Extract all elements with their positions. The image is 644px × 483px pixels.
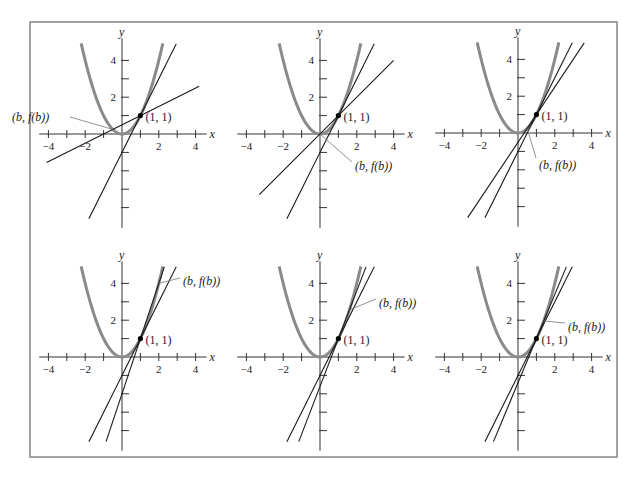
secant-point-label: (b, f(b)) xyxy=(183,274,220,288)
x-tick-label: −4 xyxy=(43,140,55,152)
y-tick-label: 2 xyxy=(111,314,117,326)
y-tick-label: 2 xyxy=(309,314,315,326)
panel-2: −4−22424xy(1, 1)(b, f(b)) xyxy=(237,25,413,228)
x-axis-label: x xyxy=(208,127,215,141)
y-tick-label: 4 xyxy=(507,53,513,65)
point-1-1 xyxy=(138,336,143,341)
x-tick-label: −2 xyxy=(79,140,91,152)
y-tick-label: 2 xyxy=(111,91,117,103)
y-tick-label: 2 xyxy=(507,90,513,102)
secant-point-label: (b, f(b)) xyxy=(568,320,605,334)
point-label: (1, 1) xyxy=(541,109,567,123)
point-1-1 xyxy=(534,112,539,117)
tangent-line xyxy=(89,44,176,219)
secant-label-leader xyxy=(159,278,180,283)
point-label: (1, 1) xyxy=(145,110,171,124)
secant-label-leader xyxy=(544,321,565,323)
point-label: (1, 1) xyxy=(541,333,567,347)
secant-point-label: (b, f(b)) xyxy=(379,296,416,310)
y-tick-label: 2 xyxy=(507,314,513,326)
y-axis-label: y xyxy=(316,248,323,262)
tangent-line xyxy=(287,267,374,442)
x-tick-label: 4 xyxy=(391,363,397,375)
x-tick-label: −2 xyxy=(79,363,91,375)
point-1-1 xyxy=(336,113,341,118)
secant-point-label: (b, f(b)) xyxy=(355,159,392,173)
panel-4: −4−22424xy(1, 1)(b, f(b)) xyxy=(39,248,220,451)
x-tick-label: 4 xyxy=(193,363,199,375)
point-1-1 xyxy=(534,336,539,341)
panel-1: −4−22424xy(1, 1)(b, f(b)) xyxy=(12,25,215,228)
x-tick-label: −4 xyxy=(241,363,253,375)
x-tick-label: −4 xyxy=(439,363,451,375)
point-label: (1, 1) xyxy=(343,110,369,124)
x-tick-label: 2 xyxy=(156,363,162,375)
y-axis-label: y xyxy=(118,25,125,39)
y-axis-label: y xyxy=(316,25,323,39)
x-tick-label: 4 xyxy=(589,139,595,151)
x-tick-label: −2 xyxy=(277,140,289,152)
x-tick-label: 4 xyxy=(391,140,397,152)
x-tick-label: −2 xyxy=(475,363,487,375)
x-tick-label: −4 xyxy=(439,139,451,151)
x-tick-label: −2 xyxy=(277,363,289,375)
y-axis-label: y xyxy=(514,248,521,262)
panel-3: −4−22424xy(1, 1)(b, f(b)) xyxy=(435,24,611,227)
tangent-line xyxy=(287,44,374,219)
tangent-line xyxy=(485,267,572,442)
point-label: (1, 1) xyxy=(343,333,369,347)
point-1-1 xyxy=(336,336,341,341)
x-tick-label: −4 xyxy=(43,363,55,375)
x-tick-label: −2 xyxy=(475,139,487,151)
secant-line xyxy=(299,267,366,442)
y-tick-label: 4 xyxy=(507,277,513,289)
tangent-line xyxy=(89,267,176,442)
y-tick-label: 4 xyxy=(111,277,117,289)
y-axis-label: y xyxy=(514,24,521,38)
y-tick-label: 4 xyxy=(309,277,315,289)
secant-line xyxy=(493,267,566,442)
x-axis-label: x xyxy=(406,350,413,364)
x-axis-label: x xyxy=(208,350,215,364)
secant-line xyxy=(259,60,393,194)
y-tick-label: 2 xyxy=(309,91,315,103)
secant-lines-figure: −4−22424xy(1, 1)(b, f(b))−4−22424xy(1, 1… xyxy=(0,0,644,483)
secant-point-label: (b, f(b)) xyxy=(12,110,49,124)
secant-label-leader xyxy=(320,134,352,162)
y-tick-label: 4 xyxy=(111,54,117,66)
point-1-1 xyxy=(138,113,143,118)
secant-point-label: (b, f(b)) xyxy=(539,158,576,172)
x-tick-label: 2 xyxy=(552,139,558,151)
panel-6: −4−22424xy(1, 1)(b, f(b)) xyxy=(435,248,611,451)
figure-frame xyxy=(30,22,617,457)
tangent-line xyxy=(485,43,572,218)
x-axis-label: x xyxy=(406,127,413,141)
panel-5: −4−22424xy(1, 1)(b, f(b)) xyxy=(237,248,416,451)
x-axis-label: x xyxy=(604,126,611,140)
x-tick-label: 4 xyxy=(193,140,199,152)
y-axis-label: y xyxy=(118,248,125,262)
x-tick-label: 2 xyxy=(156,140,162,152)
x-tick-label: 2 xyxy=(354,363,360,375)
y-tick-label: 4 xyxy=(309,54,315,66)
x-axis-label: x xyxy=(604,350,611,364)
x-tick-label: 2 xyxy=(354,140,360,152)
x-tick-label: 2 xyxy=(552,363,558,375)
point-label: (1, 1) xyxy=(145,333,171,347)
x-tick-label: 4 xyxy=(589,363,595,375)
x-tick-label: −4 xyxy=(241,140,253,152)
figure-canvas: −4−22424xy(1, 1)(b, f(b))−4−22424xy(1, 1… xyxy=(0,0,644,483)
